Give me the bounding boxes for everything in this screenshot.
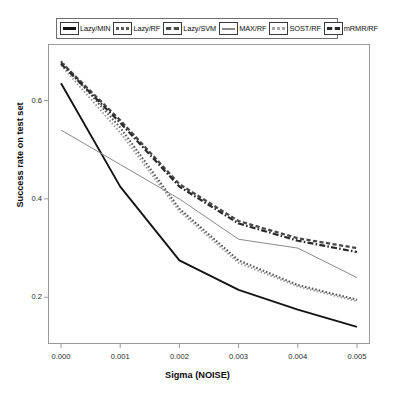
- x-axis-title: Sigma (NOISE): [0, 370, 395, 380]
- series-line: [61, 62, 357, 248]
- x-tick-label: 0.003: [214, 352, 264, 361]
- data-series-layer: [61, 61, 357, 327]
- x-tick-label: 0.001: [95, 352, 145, 361]
- y-axis-title: Success rate on test set: [15, 75, 25, 235]
- x-tick-label: 0.005: [332, 352, 382, 361]
- y-tick-label: 0.2: [6, 292, 42, 301]
- x-tick-label: 0.000: [36, 352, 86, 361]
- series-line: [61, 61, 357, 300]
- x-tick-label: 0.002: [154, 352, 204, 361]
- axis-ticks: [44, 101, 357, 348]
- series-line: [61, 65, 357, 301]
- chart-page: Lazy/MIN Lazy/RF Lazy/SVM MAX/RF SOST/RF…: [0, 0, 395, 396]
- chart-canvas: [0, 0, 395, 396]
- x-tick-label: 0.004: [273, 352, 323, 361]
- series-line: [61, 64, 357, 252]
